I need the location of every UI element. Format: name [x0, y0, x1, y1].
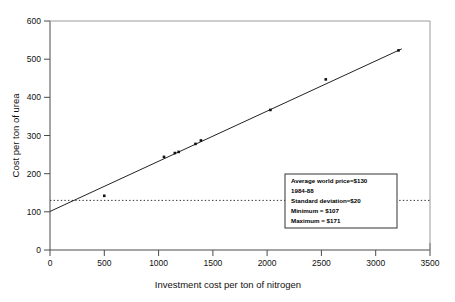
y-tick-label-100: 100 [27, 207, 41, 217]
statistics-annotation-box: Average world price=$130 1984-88 Standar… [285, 174, 397, 228]
y-axis-ticks [44, 21, 50, 250]
y-axis-tick-labels: 0 100 200 300 400 500 600 [27, 16, 41, 255]
x-tick-label-500: 500 [97, 258, 111, 268]
stat-line-maximum: Maximum = $171 [291, 217, 341, 224]
data-point [194, 143, 197, 146]
scatter-plot-svg: 0 100 200 300 400 500 600 0 500 1000 150… [0, 0, 455, 302]
y-axis-title: Cost per ton of urea [10, 93, 21, 178]
data-point [397, 49, 400, 52]
data-point [269, 109, 272, 112]
chart-figure: 0 100 200 300 400 500 600 0 500 1000 150… [0, 0, 455, 302]
x-tick-label-3500: 3500 [421, 258, 440, 268]
y-tick-label-400: 400 [27, 92, 41, 102]
x-axis-tick-labels: 0 500 1000 1500 2000 2500 3000 3500 [48, 258, 440, 268]
stat-line-std-dev: Standard deviation=$20 [291, 197, 361, 204]
x-tick-label-2000: 2000 [258, 258, 277, 268]
y-tick-label-200: 200 [27, 169, 41, 179]
data-point [163, 156, 166, 159]
data-point [324, 78, 327, 81]
x-tick-label-1500: 1500 [203, 258, 222, 268]
y-tick-label-300: 300 [27, 131, 41, 141]
y-tick-label-500: 500 [27, 54, 41, 64]
y-tick-label-600: 600 [27, 16, 41, 26]
y-tick-label-0: 0 [36, 245, 41, 255]
stat-line-minimum: Minimum = $107 [291, 207, 340, 214]
data-point [174, 152, 177, 155]
x-tick-label-1000: 1000 [149, 258, 168, 268]
stat-line-average-price: Average world price=$130 [291, 177, 368, 184]
data-point [103, 195, 106, 198]
x-tick-label-0: 0 [48, 258, 53, 268]
x-axis-ticks [50, 250, 430, 256]
x-tick-label-3000: 3000 [366, 258, 385, 268]
data-point [177, 151, 180, 154]
x-tick-label-2500: 2500 [312, 258, 331, 268]
stat-line-years: 1984-88 [291, 187, 314, 194]
x-axis-title: Investment cost per ton of nitrogen [155, 279, 301, 290]
data-point [200, 139, 203, 142]
